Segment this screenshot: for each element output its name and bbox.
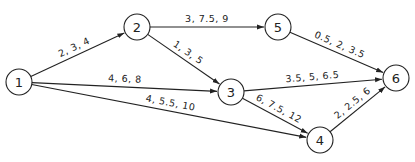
node-1: 1 xyxy=(6,69,32,95)
node-5: 5 xyxy=(265,14,291,40)
node-label: 4 xyxy=(316,133,324,148)
edge-labels-layer: 2, 3, 44, 6, 84, 5.5, 103, 7.5, 91, 3, 5… xyxy=(56,13,372,125)
node-label: 6 xyxy=(392,71,400,86)
network-diagram: 2, 3, 44, 6, 84, 5.5, 103, 7.5, 91, 3, 5… xyxy=(0,0,415,162)
node-3: 3 xyxy=(218,79,244,105)
edge-label-1-3: 4, 6, 8 xyxy=(108,72,142,85)
node-6: 6 xyxy=(383,65,409,91)
node-2: 2 xyxy=(124,14,150,40)
node-label: 5 xyxy=(274,20,282,35)
edge-label-1-2: 2, 3, 4 xyxy=(56,35,91,59)
node-4: 4 xyxy=(307,127,333,153)
node-label: 2 xyxy=(133,20,141,35)
node-label: 1 xyxy=(15,75,23,90)
edge-label-1-4: 4, 5.5, 10 xyxy=(145,92,197,112)
edge-label-3-6: 3.5, 5, 6.5 xyxy=(285,69,340,85)
edge-label-5-6: 0.5, 2, 3.5 xyxy=(313,29,367,60)
edge-label-2-5: 3, 7.5, 9 xyxy=(185,13,229,24)
nodes-layer: 123456 xyxy=(6,14,409,153)
node-label: 3 xyxy=(227,85,235,100)
